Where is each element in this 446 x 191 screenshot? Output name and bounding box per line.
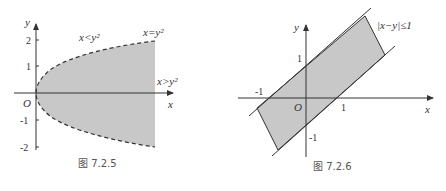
shaded-region-band	[257, 16, 385, 150]
tick-label-y-1: 1	[26, 61, 31, 72]
label-x-greater-y2: x>y²	[156, 75, 178, 87]
figure-7-2-6: y x O -1 1 1 -1 |x−y|≤1 图 7.2.6	[238, 8, 433, 172]
tick-label-y-1: 1	[297, 53, 302, 64]
figure-canvas: y x O 2 1 -1 -2 x<y² x=y² x>y² 图 7.2.5 y…	[0, 0, 446, 191]
origin-label: O	[294, 101, 302, 113]
label-abs-x-minus-y-le-1: |x−y|≤1	[377, 19, 412, 31]
caption-7-2-6: 图 7.2.6	[313, 161, 352, 172]
x-axis-label: x	[167, 98, 173, 110]
y-axis-label: y	[24, 16, 30, 28]
tick-label-x-1: 1	[341, 102, 346, 113]
tick-label-y-neg2: -2	[20, 142, 28, 153]
shaded-region-parabola	[36, 41, 155, 147]
caption-7-2-5: 图 7.2.5	[78, 158, 117, 169]
x-axis-label: x	[424, 103, 430, 115]
figure-7-2-5: y x O 2 1 -1 -2 x<y² x=y² x>y² 图 7.2.5	[14, 16, 178, 169]
tick-label-y-neg1: -1	[20, 115, 28, 126]
tick-label-x-neg1: -1	[255, 86, 263, 97]
label-x-less-y2: x<y²	[78, 31, 100, 43]
y-axis-label: y	[293, 21, 299, 33]
tick-label-y-neg1: -1	[309, 132, 317, 143]
origin-label: O	[23, 97, 31, 109]
label-x-equals-y2: x=y²	[142, 26, 164, 38]
tick-label-y-2: 2	[26, 35, 31, 46]
